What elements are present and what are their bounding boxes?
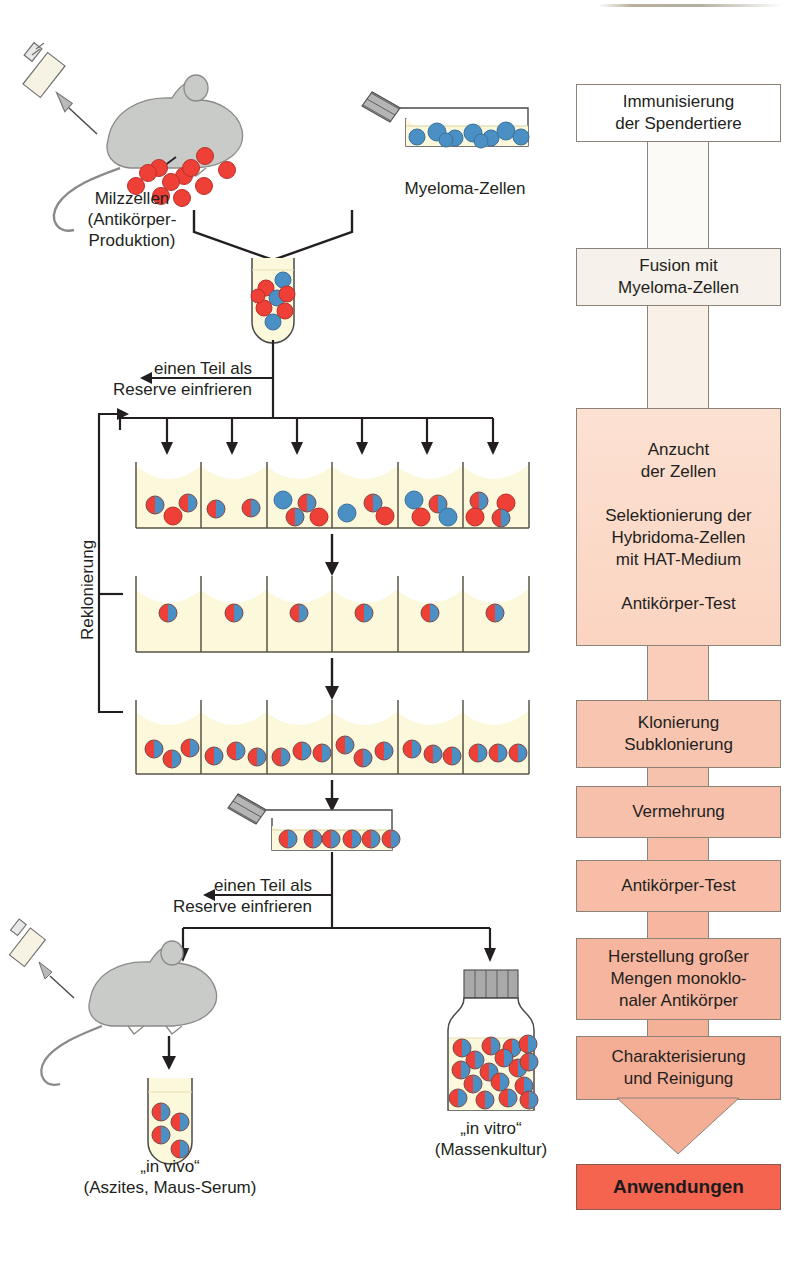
syringe-icon <box>23 43 97 134</box>
mouse-icon <box>41 941 216 1085</box>
flow-step-anwendungen[interactable]: Anwendungen <box>576 1164 781 1210</box>
label-myeloma-cells: Myeloma-Zellen <box>370 178 560 199</box>
well-plate-row-cloning <box>136 576 529 652</box>
arrow-mouse-ascites <box>162 1036 176 1070</box>
flow-step-label: Immunisierung der Spendertiere <box>615 91 742 135</box>
label-in-vivo: „in vivo“ (Aszites, Maus-Serum) <box>50 1156 290 1198</box>
culture-flask-icon <box>228 794 400 850</box>
flow-arrowhead <box>617 1098 739 1150</box>
flow-step-anzucht[interactable]: Anzucht der Zellen Selektionierung der H… <box>576 408 781 646</box>
label-freeze-reserve-1: einen Teil als Reserve einfrieren <box>110 358 252 400</box>
arrow-row2-row3 <box>325 658 339 700</box>
flow-step-label: Vermehrung <box>632 801 725 823</box>
flow-step-klonierung[interactable]: Klonierung Subklonierung <box>576 700 781 768</box>
flow-step-immunisierung[interactable]: Immunisierung der Spendertiere <box>576 84 781 142</box>
flow-step-label: Anzucht der Zellen Selektionierung der H… <box>605 439 751 615</box>
flow-step-antikoerper-test[interactable]: Antikörper-Test <box>576 860 781 912</box>
test-tube-icon <box>251 258 295 343</box>
scan-artifact <box>598 4 784 7</box>
figure-root: Milzzellen (Antikörper- Produktion) Myel… <box>0 0 798 1274</box>
flow-step-fusion[interactable]: Fusion mit Myeloma-Zellen <box>576 248 781 306</box>
arrow-row1-row2 <box>325 534 339 576</box>
label-recloning: Reklonierung <box>78 540 98 640</box>
flow-shaft-3 <box>647 640 709 706</box>
flow-step-label: Herstellung großer Mengen monoklo- naler… <box>608 946 749 1012</box>
syringe-icon <box>9 919 74 998</box>
flow-step-charakterisierung[interactable]: Charakterisierung und Reinigung <box>576 1036 781 1100</box>
flow-step-herstellung[interactable]: Herstellung großer Mengen monoklo- naler… <box>576 938 781 1020</box>
arrow-row3-flask <box>325 780 339 812</box>
flow-shaft-2 <box>647 300 709 410</box>
well-plate-row-subcloning <box>136 700 529 774</box>
flow-final-label: Anwendungen <box>613 1176 744 1198</box>
flow-step-label: Charakterisierung und Reinigung <box>611 1046 745 1090</box>
culture-bottle-icon <box>448 970 538 1110</box>
flow-step-vermehrung[interactable]: Vermehrung <box>576 786 781 838</box>
label-freeze-reserve-2: einen Teil als Reserve einfrieren <box>170 875 312 917</box>
flow-step-label: Antikörper-Test <box>621 875 735 897</box>
culture-flask-icon <box>362 92 529 148</box>
flow-shaft-1 <box>647 140 709 250</box>
flow-step-label: Klonierung Subklonierung <box>624 712 733 756</box>
label-spleen-cells: Milzzellen (Antikörper- Produktion) <box>42 188 222 251</box>
label-in-vitro: „in vitro“ (Massenkultur) <box>396 1118 586 1160</box>
well-plate-row-selection <box>136 462 529 528</box>
recloning-bracket <box>99 414 123 712</box>
test-tube-icon <box>148 1078 192 1164</box>
flow-step-label: Fusion mit Myeloma-Zellen <box>618 255 739 299</box>
